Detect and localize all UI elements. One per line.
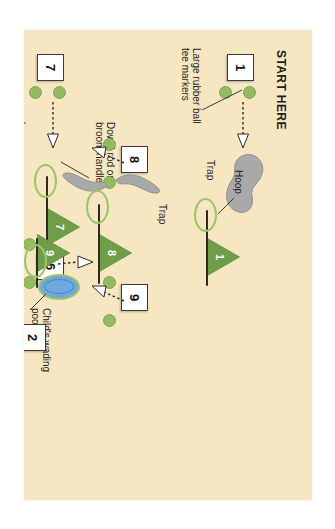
sand-trap-hole-8-right <box>112 170 168 196</box>
direction-arrow-9 <box>84 282 126 308</box>
hole-placard-2b: 2 <box>24 324 46 351</box>
leader-line-pool <box>26 292 48 316</box>
diagram-content: START HERE 1 Large rubber ball tee marke… <box>24 38 298 357</box>
callout-hoop: Hoop <box>233 170 244 194</box>
screenshot-canvas: START HERE 1 Large rubber ball tee marke… <box>0 0 335 529</box>
flag-hole-5: 5 <box>24 104 26 142</box>
course-diagram-page: START HERE 1 Large rubber ball tee marke… <box>24 30 312 500</box>
start-here-heading: START HERE <box>275 50 286 130</box>
callout-trap-8: Trap <box>157 204 168 224</box>
hole-placard-1: 1 <box>227 54 254 81</box>
hole-placard-7: 7 <box>37 54 64 81</box>
direction-arrow-7 <box>46 102 60 150</box>
leader-line-hoop <box>214 196 236 218</box>
flag-hole-8: 8 <box>99 234 132 272</box>
flag-number: 8 <box>106 234 117 272</box>
pool-inner-ring <box>44 279 74 294</box>
hoop-ring <box>86 190 109 224</box>
leader-line-rubber-ball <box>198 82 246 116</box>
tee-marker-ball <box>103 314 116 327</box>
callout-trap-1: Trap <box>205 160 216 180</box>
flag-number: 1 <box>214 238 225 276</box>
hoop-ring <box>34 164 57 198</box>
tee-marker-ball <box>53 86 66 99</box>
flag-hole-1: 1 <box>207 238 240 276</box>
tee-marker-ball <box>29 86 42 99</box>
flag-triangle <box>24 104 26 142</box>
hoop-ring <box>24 244 47 278</box>
direction-arrow-8 <box>86 144 126 170</box>
